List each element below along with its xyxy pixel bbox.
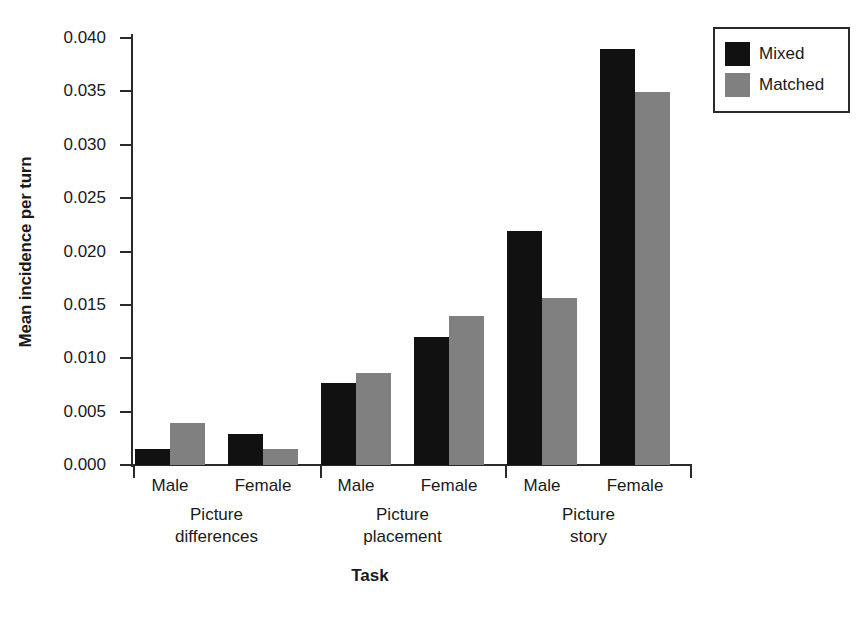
x-axis-group-label: Picturestory (489, 504, 689, 548)
bar-matched-3 (449, 316, 484, 465)
y-axis-tick-label: 0.000 (6, 456, 106, 473)
bar-mixed-2 (321, 383, 356, 465)
x-axis-group-label-line1: Picture (117, 504, 317, 526)
legend-item-mixed[interactable]: Mixed (725, 38, 848, 69)
bar-mixed-5 (600, 49, 635, 465)
x-axis-group-label-line1: Picture (303, 504, 503, 526)
y-axis-tick-label: 0.020 (6, 243, 106, 260)
x-axis-tick-label: Female (580, 476, 690, 496)
bar-matched-5 (635, 92, 670, 465)
y-axis-tick (120, 464, 132, 466)
y-axis-tick (120, 411, 132, 413)
y-axis-tick-label: 0.030 (6, 136, 106, 153)
y-axis-tick-label: 0.040 (6, 29, 106, 46)
y-axis-tick (120, 251, 132, 253)
bar-mixed-4 (507, 231, 542, 465)
bar-matched-1 (263, 449, 298, 465)
y-axis-tick (120, 90, 132, 92)
bar-matched-2 (356, 373, 391, 465)
y-axis-tick-label: 0.010 (6, 349, 106, 366)
x-axis-group-label-line2: differences (117, 526, 317, 548)
y-axis-tick (120, 304, 132, 306)
x-axis-group-label: Pictureplacement (303, 504, 503, 548)
legend-label-mixed: Mixed (759, 45, 804, 62)
x-axis-group-separator (690, 466, 692, 478)
y-axis-tick (120, 357, 132, 359)
y-axis-tick-label: 0.015 (6, 296, 106, 313)
legend-swatch-matched-icon (725, 73, 750, 97)
legend-item-matched[interactable]: Matched (725, 69, 848, 100)
x-axis-group-label-line2: story (489, 526, 689, 548)
legend: Mixed Matched (713, 27, 850, 113)
bar-matched-0 (170, 423, 205, 465)
bar-mixed-3 (414, 337, 449, 465)
bar-mixed-0 (135, 449, 170, 465)
y-axis-tick (120, 37, 132, 39)
bar-chart-figure: Mean incidence per turn 0.0400.0350.0300… (0, 0, 865, 619)
legend-swatch-mixed-icon (725, 42, 750, 66)
bars-container (133, 38, 692, 465)
legend-label-matched: Matched (759, 76, 824, 93)
y-axis-tick-label: 0.035 (6, 82, 106, 99)
y-axis-tick-label: 0.005 (6, 403, 106, 420)
y-axis-tick-label: 0.025 (6, 189, 106, 206)
x-axis-group-label-line1: Picture (489, 504, 689, 526)
y-axis-tick (120, 197, 132, 199)
x-axis-title: Task (0, 566, 740, 586)
bar-mixed-1 (228, 434, 263, 465)
x-axis-group-label: Picturedifferences (117, 504, 317, 548)
x-axis-group-label-line2: placement (303, 526, 503, 548)
y-axis-tick (120, 144, 132, 146)
bar-matched-4 (542, 298, 577, 465)
